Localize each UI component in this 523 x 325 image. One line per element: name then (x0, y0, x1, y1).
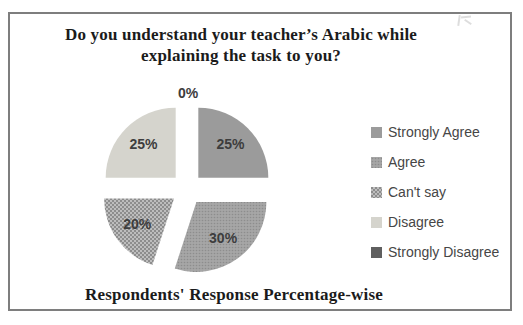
data-label-agree: 30% (209, 230, 238, 246)
data-label-strongly-agree: 25% (216, 136, 245, 152)
legend: Strongly AgreeAgreeCan't sayDisagreeStro… (371, 117, 511, 267)
data-label-can-t-say: 20% (123, 216, 152, 232)
legend-item: Can't say (371, 177, 511, 207)
legend-item: Strongly Agree (371, 117, 511, 147)
legend-label: Strongly Agree (388, 124, 480, 140)
legend-label: Agree (388, 154, 425, 170)
legend-item: Strongly Disagree (371, 237, 511, 267)
legend-swatch-icon (371, 247, 382, 258)
legend-label: Disagree (388, 214, 444, 230)
data-label-strongly-disagree: 0% (178, 85, 199, 101)
legend-label: Strongly Disagree (388, 244, 499, 260)
legend-item: Disagree (371, 207, 511, 237)
legend-swatch-icon (371, 157, 382, 168)
legend-swatch-icon (371, 187, 382, 198)
legend-swatch-icon (371, 217, 382, 228)
legend-item: Agree (371, 147, 511, 177)
chart-caption: Respondents' Response Percentage-wise (8, 285, 460, 305)
legend-label: Can't say (388, 184, 446, 200)
data-label-disagree: 25% (129, 136, 158, 152)
legend-swatch-icon (371, 127, 382, 138)
